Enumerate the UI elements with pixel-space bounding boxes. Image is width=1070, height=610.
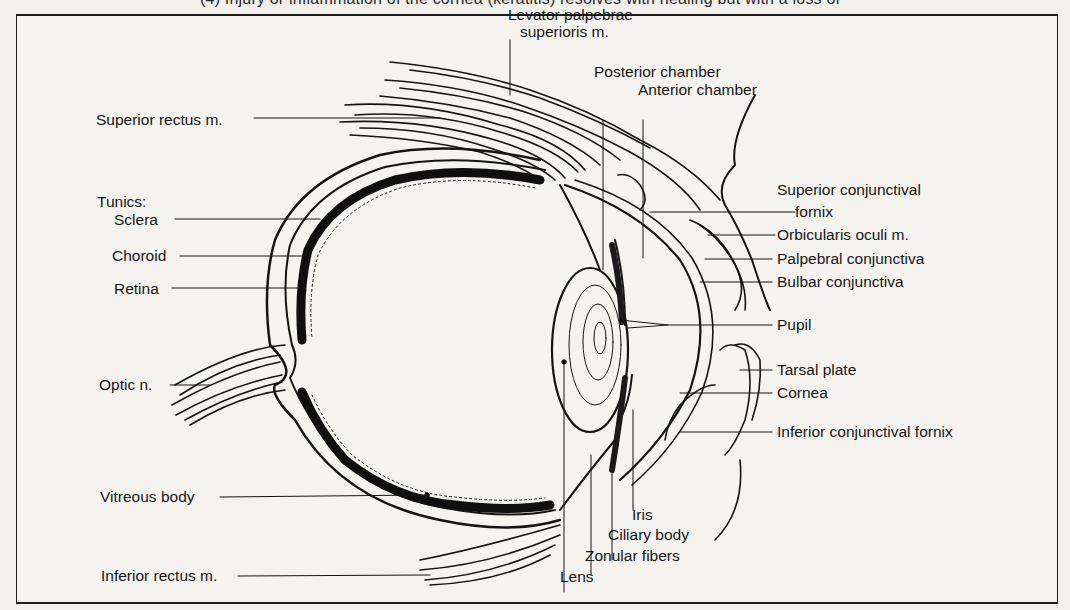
label-levator-palpebrae-line1: Levator palpebrae: [508, 6, 633, 24]
label-superior-rectus: Superior rectus m.: [96, 111, 223, 129]
label-levator-palpebrae-line2: superioris m.: [520, 23, 609, 41]
label-bulbar-conjunctiva: Bulbar conjunctiva: [777, 273, 904, 291]
upper-eyelid: [618, 174, 745, 310]
label-ciliary-body: Ciliary body: [608, 526, 689, 544]
label-pupil: Pupil: [777, 316, 811, 334]
choroid-retina-band: [301, 173, 550, 509]
sclera-outer-wall: [267, 149, 560, 528]
label-optic-nerve: Optic n.: [99, 376, 152, 394]
label-orbicularis-oculi: Orbicularis oculi m.: [777, 226, 909, 244]
label-vitreous-body: Vitreous body: [100, 488, 195, 506]
label-inferior-rectus: Inferior rectus m.: [101, 567, 217, 585]
lens-outline: [552, 268, 628, 432]
eye-anatomy-diagram: [0, 0, 1070, 610]
label-zonular-fibers: Zonular fibers: [585, 547, 680, 565]
label-iris: Iris: [632, 506, 653, 524]
label-palpebral-conjunctiva: Palpebral conjunctiva: [777, 250, 924, 268]
upper-eyelid-skin: [722, 95, 770, 310]
label-posterior-chamber: Posterior chamber: [594, 63, 721, 81]
label-tunics: Tunics:: [97, 193, 146, 211]
label-retina: Retina: [114, 280, 159, 298]
label-sclera: Sclera: [114, 211, 158, 229]
lower-eyelid: [665, 344, 760, 540]
label-superior-conjunctival-fornix-line1: Superior conjunctival: [777, 181, 921, 199]
inferior-rectus-muscle: [420, 525, 560, 585]
label-superior-conjunctival-fornix-line2: fornix: [795, 203, 833, 221]
label-inferior-conjunctival-fornix: Inferior conjunctival fornix: [777, 423, 953, 441]
label-anterior-chamber: Anterior chamber: [638, 81, 757, 99]
label-cornea: Cornea: [777, 384, 828, 402]
label-lens: Lens: [560, 568, 594, 586]
label-choroid: Choroid: [112, 247, 166, 265]
label-tarsal-plate: Tarsal plate: [777, 361, 856, 379]
